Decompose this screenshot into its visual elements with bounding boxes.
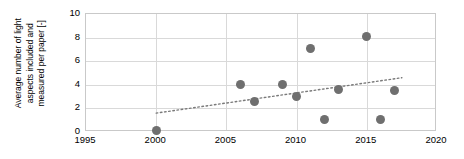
x-tick-label: 2010 xyxy=(274,134,318,145)
y-tick-label: 2 xyxy=(60,101,80,112)
y-axis-title-line-2: aspects included and xyxy=(24,0,36,133)
trendline xyxy=(86,14,437,132)
x-tick-label: 2005 xyxy=(203,134,247,145)
x-tick-label: 2015 xyxy=(344,134,388,145)
plot-area xyxy=(85,13,436,131)
y-axis-title-line-3: measured per paper [-] xyxy=(36,0,48,133)
scatter-chart: Average number of light aspects included… xyxy=(0,0,464,159)
data-point xyxy=(292,92,301,101)
data-point xyxy=(376,115,385,124)
y-tick-label: 8 xyxy=(60,31,80,42)
y-tick-label: 4 xyxy=(60,78,80,89)
y-tick-label: 6 xyxy=(60,54,80,65)
data-point xyxy=(152,126,161,135)
y-axis-title-line-1: Average number of light xyxy=(13,0,25,133)
x-tick-label: 2020 xyxy=(414,134,458,145)
data-point xyxy=(278,80,287,89)
data-point xyxy=(390,86,399,95)
x-tick-label: 2000 xyxy=(133,134,177,145)
data-point xyxy=(320,115,329,124)
y-axis-title: Average number of light aspects included… xyxy=(0,0,60,159)
x-tick-label: 1995 xyxy=(63,134,107,145)
data-point xyxy=(236,80,245,89)
y-tick-label: 10 xyxy=(60,7,80,18)
